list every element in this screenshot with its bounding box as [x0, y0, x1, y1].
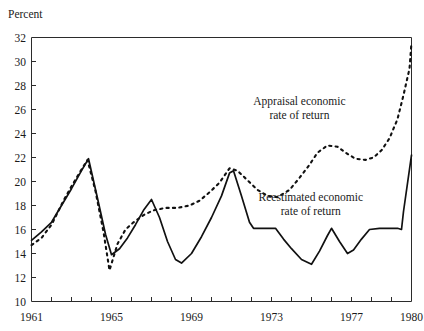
y-axis-tick-label: 18 — [15, 200, 27, 212]
x-axis-tick-label: 1969 — [180, 311, 203, 323]
y-axis-tick-label: 24 — [15, 128, 27, 140]
appraisal-label: rate of return — [269, 109, 329, 121]
y-axis-tick-label: 14 — [15, 248, 27, 260]
y-axis-tick-label: 22 — [15, 152, 27, 164]
economic-rate-of-return-line-chart: Percent 101214161820222426283032 1961196… — [0, 0, 424, 331]
y-axis-tick-label: 16 — [15, 224, 27, 236]
x-axis-tick-label: 1977 — [340, 311, 363, 323]
x-axis-tick-label: 1973 — [260, 311, 283, 323]
y-axis-tick-label: 28 — [15, 80, 27, 92]
reestimated-label: Reestimated economic — [259, 191, 363, 203]
y-axis-tick-label: 26 — [15, 104, 27, 116]
y-axis-tick-label: 20 — [15, 176, 27, 188]
x-axis-tick-label: 1961 — [20, 311, 43, 323]
y-axis-tick-label: 10 — [15, 296, 27, 308]
y-axis-tick-label: 30 — [15, 56, 27, 68]
chart-background — [0, 0, 424, 331]
chart-container: Percent 101214161820222426283032 1961196… — [0, 0, 424, 331]
x-axis-tick-label: 1965 — [100, 311, 123, 323]
y-axis-title: Percent — [8, 8, 43, 20]
x-axis-tick-label: 1980 — [400, 311, 423, 323]
y-axis-tick-label: 12 — [15, 272, 27, 284]
reestimated-label: rate of return — [281, 205, 341, 217]
appraisal-label: Appraisal economic — [253, 95, 345, 108]
y-axis-tick-label: 32 — [15, 32, 27, 44]
